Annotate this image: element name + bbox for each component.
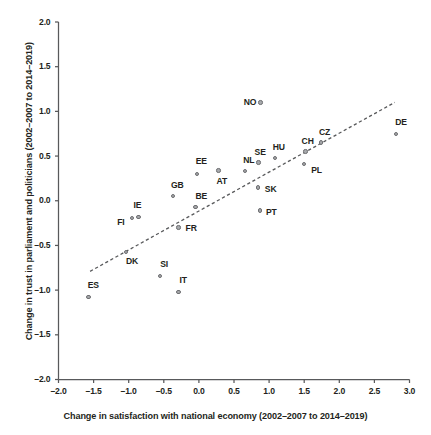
data-point-label-gb: GB <box>171 180 184 190</box>
data-point-label-cz: CZ <box>319 127 330 137</box>
data-point-label-fi: FI <box>117 217 124 227</box>
data-point-label-pl: PL <box>311 165 322 175</box>
data-point-ee[interactable] <box>195 172 199 176</box>
data-point-label-fr: FR <box>186 223 197 233</box>
data-point-dk[interactable] <box>124 250 128 254</box>
data-point-label-sk: SK <box>265 184 277 194</box>
data-point-label-nl: NL <box>243 155 254 165</box>
data-point-label-at: AT <box>217 176 228 186</box>
data-point-label-ch: CH <box>302 136 314 146</box>
data-point-at[interactable] <box>216 168 220 172</box>
data-point-sk[interactable] <box>256 185 260 189</box>
data-point-se[interactable] <box>256 160 260 164</box>
data-point-fr[interactable] <box>176 225 180 229</box>
data-point-label-ie: IE <box>134 200 142 210</box>
data-point-label-si: SI <box>160 259 168 269</box>
data-point-label-no: NO <box>244 97 257 107</box>
data-point-label-dk: DK <box>126 256 138 266</box>
data-point-hu[interactable] <box>273 156 277 160</box>
data-point-label-pt: PT <box>266 207 277 217</box>
data-point-it[interactable] <box>176 290 180 294</box>
data-point-label-de: DE <box>395 117 407 127</box>
data-point-label-be: BE <box>195 191 207 201</box>
data-point-label-se: SE <box>255 147 266 157</box>
data-point-label-it: IT <box>180 275 187 285</box>
data-point-label-ee: EE <box>196 156 207 166</box>
data-point-cz[interactable] <box>319 140 323 144</box>
data-point-be[interactable] <box>193 205 197 209</box>
data-point-ie[interactable] <box>136 215 140 219</box>
chart-axes <box>0 0 431 435</box>
data-point-ch[interactable] <box>303 149 307 153</box>
data-point-pt[interactable] <box>258 208 262 212</box>
data-point-label-hu: HU <box>273 142 285 152</box>
data-point-label-es: ES <box>88 280 99 290</box>
trend-line <box>90 102 395 271</box>
data-point-no[interactable] <box>258 100 262 104</box>
scatter-chart-figure: Change in trust in parliament and politi… <box>0 0 431 435</box>
